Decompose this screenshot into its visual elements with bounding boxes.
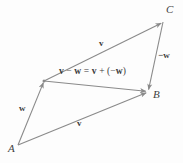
vector-label-v-bottom: v (77, 119, 82, 128)
equation-close-paren: ) (123, 66, 126, 76)
equation-equals: = (84, 66, 89, 76)
diagram-canvas (0, 0, 183, 163)
equation-minus: − (66, 66, 71, 76)
vertex-M-dot (43, 80, 46, 83)
equation-label: v−w=v+(−w) (59, 67, 126, 77)
point-label-a: A (8, 143, 15, 154)
point-label-c: C (166, 4, 173, 15)
vector-label-negative-w: −w (158, 51, 170, 60)
equation-w-1: w (74, 66, 81, 76)
vector-v-minus-w-line (44, 81, 146, 91)
vector-subtraction-diagram: C B A v v w −w v−w=v+(−w) (0, 0, 183, 163)
equation-open-paren: (− (107, 66, 116, 76)
vector-label-v-top: v (99, 39, 104, 48)
equation-v-1: v (59, 66, 64, 76)
equation-plus: + (99, 66, 104, 76)
vector-label-w: w (19, 104, 26, 113)
vector-v-bottom-line (18, 93, 146, 145)
equation-w-2: w (116, 66, 123, 76)
equation-v-2: v (92, 66, 97, 76)
point-label-b: B (153, 89, 160, 100)
